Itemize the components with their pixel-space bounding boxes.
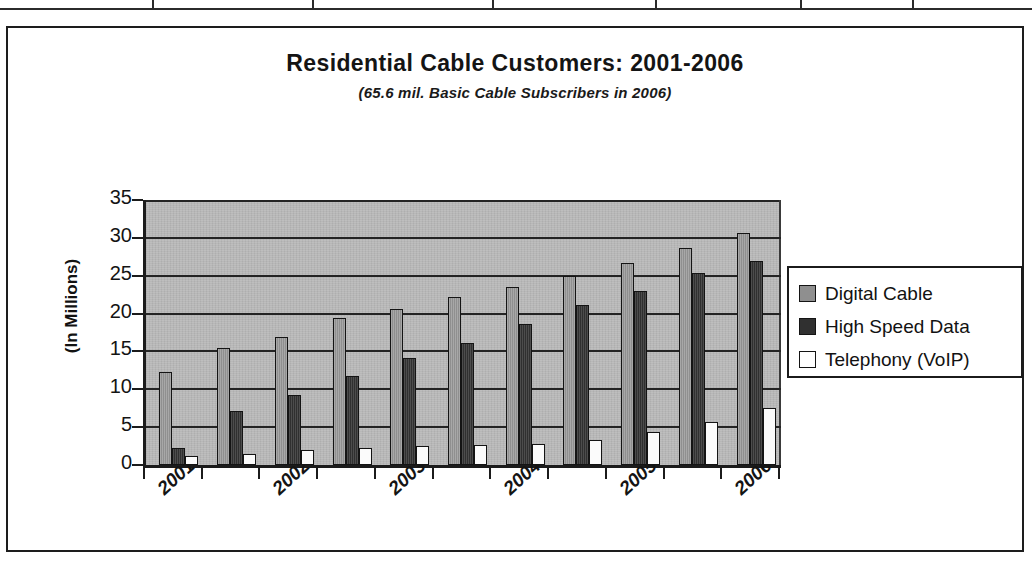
bar-high-speed-data xyxy=(692,273,705,465)
table-column-divider xyxy=(655,0,657,10)
y-axis-tick-label: 5 xyxy=(92,414,132,434)
bar-telephony-voip xyxy=(705,422,718,465)
y-axis-tick-mark xyxy=(132,350,143,352)
x-axis-tick-mark xyxy=(489,468,491,479)
table-column-divider xyxy=(492,0,494,10)
bar-high-speed-data xyxy=(461,343,474,465)
bar-digital-cable xyxy=(679,248,692,465)
legend-label: High Speed Data xyxy=(825,317,970,336)
y-axis-tick-mark xyxy=(132,388,143,390)
bar-telephony-voip xyxy=(647,432,660,465)
y-axis-tick-label: 20 xyxy=(92,301,132,321)
bar-high-speed-data xyxy=(519,324,532,465)
table-column-divider xyxy=(912,0,914,10)
table-column-divider xyxy=(152,0,154,10)
bar-telephony-voip xyxy=(301,450,314,465)
bar-telephony-voip xyxy=(763,408,776,465)
x-axis-tick-mark xyxy=(663,468,665,479)
page-top-table-fragment xyxy=(0,0,1032,14)
x-axis-tick-mark xyxy=(143,468,145,479)
y-axis-tick-label: 15 xyxy=(92,338,132,358)
legend-label: Telephony (VoIP) xyxy=(825,350,970,369)
bar-high-speed-data xyxy=(346,376,359,465)
legend-label: Digital Cable xyxy=(825,284,933,303)
y-axis-tick-label: 10 xyxy=(92,376,132,396)
legend-item: Telephony (VoIP) xyxy=(799,343,1021,376)
table-column-divider xyxy=(800,0,802,10)
table-horizontal-rule xyxy=(0,8,1032,10)
y-axis-tick-mark xyxy=(132,237,143,239)
y-axis-tick-label: 35 xyxy=(92,187,132,207)
plot-top-edge xyxy=(146,200,781,202)
x-axis-tick-mark xyxy=(720,468,722,479)
bar-digital-cable xyxy=(217,348,230,465)
x-axis-tick-mark xyxy=(316,468,318,479)
bar-digital-cable xyxy=(275,337,288,465)
y-axis-tick-mark xyxy=(132,313,143,315)
bar-telephony-voip xyxy=(474,445,487,465)
bar-telephony-voip xyxy=(416,446,429,465)
chart-frame: Residential Cable Customers: 2001-2006 (… xyxy=(6,26,1024,552)
chart-subtitle: (65.6 mil. Basic Cable Subscribers in 20… xyxy=(8,84,1022,101)
y-axis-tick-label: 0 xyxy=(92,452,132,472)
bar-digital-cable xyxy=(621,263,634,465)
x-axis-tick-mark xyxy=(258,468,260,479)
legend-swatch-icon xyxy=(799,285,816,302)
x-axis-tick-mark xyxy=(547,468,549,479)
bar-digital-cable xyxy=(563,276,576,465)
y-axis-title: (In Millions) xyxy=(62,206,82,406)
y-axis-tick-mark xyxy=(132,199,143,201)
bar-digital-cable xyxy=(737,233,750,465)
y-axis-tick-mark xyxy=(132,275,143,277)
bar-high-speed-data xyxy=(230,411,243,466)
legend-item: Digital Cable xyxy=(799,277,1021,310)
bar-high-speed-data xyxy=(288,395,301,465)
x-axis-tick-mark xyxy=(778,468,780,479)
y-axis-tick-mark xyxy=(132,426,143,428)
bar-digital-cable xyxy=(448,297,461,465)
bar-digital-cable xyxy=(333,318,346,465)
chart-title: Residential Cable Customers: 2001-2006 xyxy=(8,50,1022,77)
table-column-divider xyxy=(312,0,314,10)
x-axis-tick-mark xyxy=(605,468,607,479)
chart-legend: Digital CableHigh Speed DataTelephony (V… xyxy=(787,266,1023,378)
plot-area xyxy=(143,200,781,468)
bar-high-speed-data xyxy=(576,305,589,466)
bar-telephony-voip xyxy=(532,444,545,465)
bar-telephony-voip xyxy=(243,454,256,465)
y-axis-tick-mark xyxy=(132,464,143,466)
bar-high-speed-data xyxy=(634,291,647,465)
bar-digital-cable xyxy=(390,309,403,465)
bar-telephony-voip xyxy=(589,440,602,465)
x-axis-tick-mark xyxy=(432,468,434,479)
y-axis-tick-label: 25 xyxy=(92,263,132,283)
bar-high-speed-data xyxy=(750,261,763,465)
y-axis-tick-labels: 35302520151050 xyxy=(86,28,132,566)
bar-digital-cable xyxy=(506,287,519,465)
gridline xyxy=(146,237,781,239)
x-axis-tick-mark xyxy=(374,468,376,479)
bar-digital-cable xyxy=(159,372,172,465)
bar-high-speed-data xyxy=(172,448,185,465)
y-axis-tick-label: 30 xyxy=(92,225,132,245)
bar-telephony-voip xyxy=(359,448,372,465)
legend-swatch-icon xyxy=(799,318,816,335)
legend-item: High Speed Data xyxy=(799,310,1021,343)
x-axis-tick-mark xyxy=(201,468,203,479)
bar-telephony-voip xyxy=(185,456,198,465)
bar-high-speed-data xyxy=(403,358,416,465)
legend-swatch-icon xyxy=(799,351,816,368)
